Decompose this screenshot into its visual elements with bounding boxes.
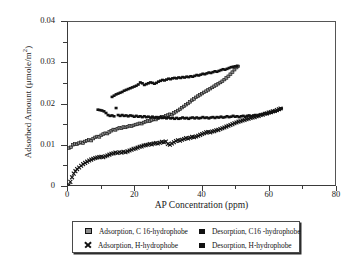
- y-tick-minor: [63, 42, 67, 43]
- filled-square-marker-icon: [199, 243, 205, 248]
- chart-figure: 00.010.020.030.04 020406080 Adsorbed Amo…: [0, 0, 357, 266]
- x-tick-label: 20: [114, 190, 154, 199]
- x-tick-minor: [168, 186, 169, 189]
- data-point: [70, 175, 74, 179]
- y-tick: [61, 62, 67, 63]
- y-tick: [61, 104, 67, 105]
- x-tick-label: 60: [249, 190, 289, 199]
- legend-item-adsorption-h[interactable]: Adsorption, H-hydrophobe: [85, 239, 178, 251]
- legend-label: Desorption, C16 -hydrophobe: [212, 227, 300, 236]
- legend-item-desorption-h[interactable]: Desorption, H-hydrophobe: [199, 239, 292, 251]
- data-point: [113, 115, 116, 118]
- legend-label: Adsorption, C 16-hydrophobe: [99, 227, 188, 236]
- open-square-marker-icon: [85, 228, 92, 234]
- legend-label: Adsorption, H-hydrophobe: [98, 241, 178, 250]
- x-marker-icon: [85, 242, 91, 248]
- y-tick-minor: [63, 124, 67, 125]
- legend-item-adsorption-c16[interactable]: Adsorption, C 16-hydrophobe: [85, 225, 188, 237]
- x-tick-minor: [101, 186, 102, 189]
- legend-item-desorption-c16[interactable]: Desorption, C16 -hydrophobe: [199, 225, 300, 237]
- data-point: [115, 107, 118, 110]
- y-tick-minor: [63, 83, 67, 84]
- filled-square-marker-icon: [199, 229, 205, 234]
- legend-row: Adsorption, C 16-hydrophobe Desorption, …: [73, 225, 301, 237]
- data-point: [236, 65, 239, 68]
- y-axis-title-exponent: 2: [21, 49, 28, 52]
- y-tick: [61, 145, 67, 146]
- legend-row: Adsorption, H-hydrophobe Desorption, H-h…: [73, 239, 301, 251]
- x-tick-label: 40: [182, 190, 222, 199]
- x-tick-minor: [302, 186, 303, 189]
- y-axis-title-text: Adsorbed Amount (μmole/m: [23, 52, 33, 158]
- chart-legend: Adsorption, C 16-hydrophobe Desorption, …: [72, 221, 300, 253]
- plot-data-area: [67, 21, 336, 186]
- x-tick-label: 0: [47, 190, 87, 199]
- y-tick: [61, 21, 67, 22]
- x-tick-minor: [235, 186, 236, 189]
- series-0: [68, 65, 240, 149]
- y-tick-minor: [63, 165, 67, 166]
- data-point: [280, 107, 283, 110]
- legend-label: Desorption, H-hydrophobe: [212, 241, 292, 250]
- x-axis-title: AP Concentration (ppm): [67, 200, 336, 210]
- y-axis-title: Adsorbed Amount (μmole/m2): [21, 12, 33, 192]
- y-axis-title-tail: ): [23, 46, 33, 49]
- x-tick-label: 80: [316, 190, 356, 199]
